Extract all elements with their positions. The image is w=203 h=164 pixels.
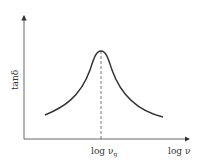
- loss-peak-curve: [45, 51, 163, 117]
- chart-canvas: tanδ log νg log ν: [0, 0, 203, 164]
- peak-tick-label-sub: g: [113, 150, 117, 158]
- peak-tick-label: log νg: [91, 146, 117, 158]
- peak-tick-label-main: log ν: [91, 146, 113, 156]
- y-axis-label: tanδ: [10, 70, 20, 90]
- x-axis-label: log ν: [168, 146, 190, 156]
